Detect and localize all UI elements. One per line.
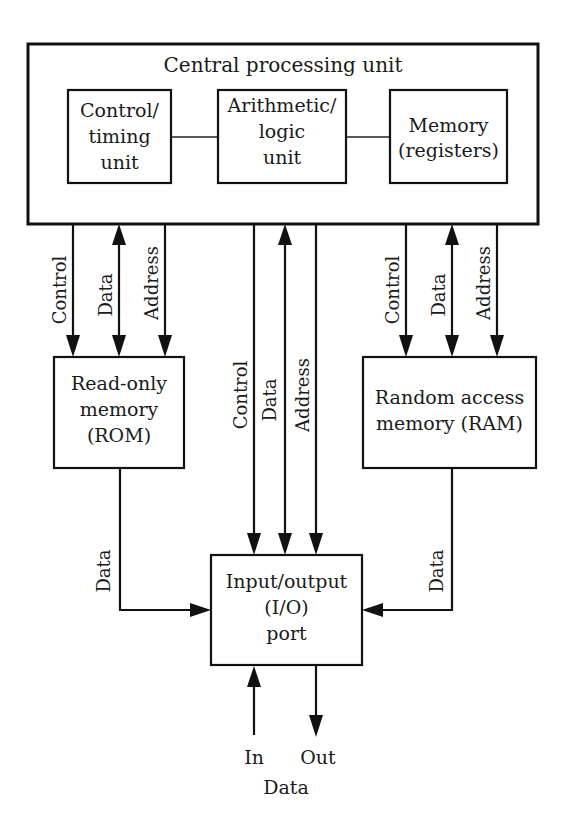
arrow-down-icon [158, 335, 172, 357]
right-address-label: Address [473, 246, 494, 321]
rom-to-io-data-line [120, 468, 197, 610]
io-line2: (I/O) [264, 596, 308, 618]
rom-line1: Read-only [71, 372, 167, 394]
right-data-label: Data [428, 273, 449, 316]
left-data-label: Data [95, 273, 116, 316]
cpu-block-diagram: Central processing unit Control/ timing … [0, 0, 571, 826]
middle-data-label: Data [259, 378, 280, 421]
middle-control-label: Control [230, 360, 251, 429]
arrow-up-icon [445, 224, 459, 245]
right-control-label: Control [382, 255, 403, 324]
registers-line1: Memory [409, 114, 489, 136]
control-timing-line3: unit [100, 151, 139, 173]
registers-box [390, 90, 507, 183]
arrow-down-icon [278, 533, 292, 555]
alu-line3: unit [263, 146, 302, 168]
left-control-label: Control [49, 255, 70, 324]
rom-to-io-data-label: Data [93, 549, 114, 592]
arrow-down-icon [66, 335, 80, 357]
io-line1: Input/output [226, 570, 348, 592]
middle-address-label: Address [292, 358, 313, 433]
data-in-label: In [244, 746, 264, 768]
arrow-down-icon [247, 533, 261, 555]
ram-line1: Random access [375, 386, 524, 408]
ram-line2: memory (RAM) [376, 412, 523, 434]
left-address-label: Address [141, 246, 162, 321]
cpu-title: Central processing unit [164, 53, 403, 77]
registers-line2: (registers) [398, 139, 499, 161]
alu-line2: logic [259, 120, 305, 142]
rom-line3: (ROM) [87, 424, 151, 446]
arrow-down-icon [490, 335, 504, 357]
arrow-down-icon [112, 335, 126, 357]
data-out-label: Out [300, 746, 336, 768]
arrow-down-icon [309, 533, 323, 555]
io-line3: port [266, 622, 307, 644]
arrow-down-icon [399, 335, 413, 357]
arrow-up-icon [247, 666, 261, 687]
arrow-left-icon [362, 603, 383, 617]
arrow-up-icon [278, 224, 292, 245]
arrow-right-icon [190, 603, 211, 617]
control-timing-line2: timing [88, 125, 150, 147]
arrow-up-icon [112, 224, 126, 245]
arrow-down-icon [445, 335, 459, 357]
rom-line2: memory [80, 398, 159, 420]
external-data-label: Data [263, 776, 309, 798]
alu-line1: Arithmetic/ [227, 94, 337, 116]
ram-to-io-data-label: Data [426, 549, 447, 592]
control-timing-line1: Control/ [80, 99, 159, 121]
arrow-down-icon [309, 715, 323, 737]
